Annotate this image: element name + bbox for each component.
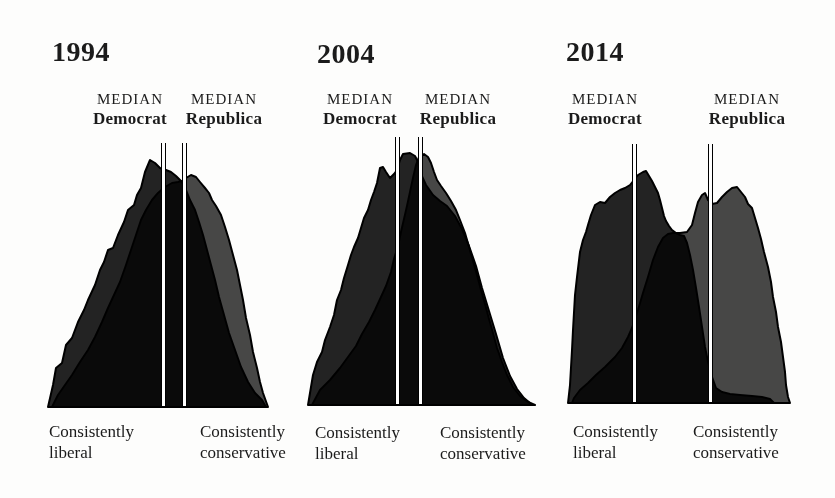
median-party: Republica bbox=[709, 109, 785, 128]
consistently-liberal-label-2004: Consistently liberal bbox=[315, 422, 400, 464]
median-republican-label-2004: MEDIAN Republica bbox=[420, 90, 496, 128]
distribution-panel-2004 bbox=[308, 137, 535, 405]
axis-label-line2: liberal bbox=[49, 442, 134, 463]
median-party: Republica bbox=[186, 109, 262, 128]
median-party: Democrat bbox=[568, 109, 642, 128]
median-word: MEDIAN bbox=[568, 90, 642, 109]
median-party: Democrat bbox=[93, 109, 167, 128]
axis-label-line2: conservative bbox=[440, 443, 526, 464]
axis-label-line2: conservative bbox=[200, 442, 286, 463]
panel-title-2014: 2014 bbox=[566, 36, 624, 68]
axis-label-line1: Consistently bbox=[440, 422, 526, 443]
median-word: MEDIAN bbox=[186, 90, 262, 109]
axis-label-line1: Consistently bbox=[315, 422, 400, 443]
axis-label-line1: Consistently bbox=[573, 421, 658, 442]
axis-label-line1: Consistently bbox=[693, 421, 779, 442]
median-democrat-label-2004: MEDIAN Democrat bbox=[323, 90, 397, 128]
area-1994-republican bbox=[52, 175, 268, 407]
median-republican-label-1994: MEDIAN Republica bbox=[186, 90, 262, 128]
consistently-conservative-label-1994: Consistently conservative bbox=[200, 421, 286, 463]
median-word: MEDIAN bbox=[323, 90, 397, 109]
polarization-figure: 1994 MEDIAN Democrat MEDIAN Republica Co… bbox=[0, 0, 835, 498]
median-party: Democrat bbox=[323, 109, 397, 128]
axis-label-line2: conservative bbox=[693, 442, 779, 463]
median-party: Republica bbox=[420, 109, 496, 128]
consistently-liberal-label-1994: Consistently liberal bbox=[49, 421, 134, 463]
consistently-conservative-label-2004: Consistently conservative bbox=[440, 422, 526, 464]
median-democrat-label-2014: MEDIAN Democrat bbox=[568, 90, 642, 128]
axis-label-line2: liberal bbox=[573, 442, 658, 463]
distribution-panel-1994 bbox=[48, 143, 268, 407]
axis-label-line1: Consistently bbox=[200, 421, 286, 442]
median-word: MEDIAN bbox=[420, 90, 496, 109]
median-word: MEDIAN bbox=[709, 90, 785, 109]
axis-label-line2: liberal bbox=[315, 443, 400, 464]
consistently-conservative-label-2014: Consistently conservative bbox=[693, 421, 779, 463]
median-republican-label-2014: MEDIAN Republica bbox=[709, 90, 785, 128]
consistently-liberal-label-2014: Consistently liberal bbox=[573, 421, 658, 463]
panel-title-2004: 2004 bbox=[317, 38, 375, 70]
panel-title-1994: 1994 bbox=[52, 36, 110, 68]
median-word: MEDIAN bbox=[93, 90, 167, 109]
distribution-panel-2014 bbox=[568, 144, 790, 403]
axis-label-line1: Consistently bbox=[49, 421, 134, 442]
median-democrat-label-1994: MEDIAN Democrat bbox=[93, 90, 167, 128]
